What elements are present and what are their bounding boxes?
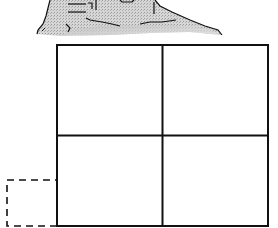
diagram-canvas (0, 0, 278, 228)
dashed-square (7, 180, 57, 226)
hand-icon (37, 0, 222, 36)
grid-2x2 (57, 45, 268, 226)
